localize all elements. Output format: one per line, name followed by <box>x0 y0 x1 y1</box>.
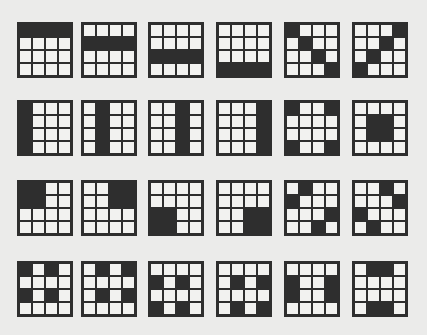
empty-cell <box>245 38 256 49</box>
filled-cell <box>97 129 108 140</box>
empty-cell <box>287 222 298 233</box>
empty-cell <box>219 142 230 153</box>
filled-cell <box>123 290 134 301</box>
empty-cell <box>190 25 201 36</box>
filled-cell <box>97 264 108 275</box>
empty-cell <box>97 51 108 62</box>
empty-cell <box>232 142 243 153</box>
filled-cell <box>313 51 324 62</box>
empty-cell <box>46 222 57 233</box>
empty-cell <box>313 303 324 314</box>
empty-cell <box>190 209 201 220</box>
empty-cell <box>84 196 95 207</box>
empty-cell <box>190 64 201 75</box>
empty-cell <box>245 142 256 153</box>
empty-cell <box>59 38 70 49</box>
empty-cell <box>110 64 121 75</box>
filled-cell <box>151 51 162 62</box>
filled-cell <box>287 196 298 207</box>
empty-cell <box>232 103 243 114</box>
filled-cell <box>368 303 379 314</box>
filled-cell <box>59 25 70 36</box>
empty-cell <box>164 196 175 207</box>
empty-cell <box>110 116 121 127</box>
empty-cell <box>123 129 134 140</box>
empty-cell <box>20 277 31 288</box>
empty-cell <box>20 51 31 62</box>
empty-cell <box>394 183 405 194</box>
empty-cell <box>219 277 230 288</box>
empty-cell <box>245 290 256 301</box>
filled-cell <box>151 303 162 314</box>
empty-cell <box>381 64 392 75</box>
empty-cell <box>110 209 121 220</box>
empty-cell <box>190 303 201 314</box>
empty-cell <box>59 142 70 153</box>
empty-cell <box>110 222 121 233</box>
empty-cell <box>245 196 256 207</box>
empty-cell <box>177 25 188 36</box>
empty-cell <box>177 38 188 49</box>
filled-cell <box>97 103 108 114</box>
filled-cell <box>151 209 162 220</box>
empty-cell <box>245 25 256 36</box>
empty-cell <box>151 64 162 75</box>
empty-cell <box>110 103 121 114</box>
empty-cell <box>110 51 121 62</box>
empty-cell <box>300 64 311 75</box>
empty-cell <box>355 222 366 233</box>
filled-cell <box>123 264 134 275</box>
empty-cell <box>368 277 379 288</box>
filled-cell <box>164 209 175 220</box>
empty-cell <box>368 290 379 301</box>
pattern-grid-r1-c2 <box>81 22 137 78</box>
empty-cell <box>164 183 175 194</box>
empty-cell <box>219 51 230 62</box>
filled-cell <box>177 103 188 114</box>
filled-cell <box>123 183 134 194</box>
empty-cell <box>177 196 188 207</box>
empty-cell <box>151 116 162 127</box>
empty-cell <box>33 116 44 127</box>
empty-cell <box>190 277 201 288</box>
empty-cell <box>164 38 175 49</box>
pattern-grid-r4-c2 <box>81 261 137 317</box>
filled-cell <box>287 103 298 114</box>
pattern-grid-r2-c6 <box>352 100 408 156</box>
filled-cell <box>381 183 392 194</box>
empty-cell <box>59 303 70 314</box>
filled-cell <box>258 116 269 127</box>
empty-cell <box>123 277 134 288</box>
filled-cell <box>110 183 121 194</box>
filled-cell <box>46 25 57 36</box>
empty-cell <box>326 303 337 314</box>
filled-cell <box>190 51 201 62</box>
empty-cell <box>300 290 311 301</box>
empty-cell <box>232 183 243 194</box>
filled-cell <box>245 222 256 233</box>
filled-cell <box>381 303 392 314</box>
empty-cell <box>190 290 201 301</box>
empty-cell <box>287 116 298 127</box>
empty-cell <box>355 183 366 194</box>
empty-cell <box>287 303 298 314</box>
empty-cell <box>164 264 175 275</box>
empty-cell <box>177 209 188 220</box>
empty-cell <box>287 129 298 140</box>
empty-cell <box>84 116 95 127</box>
filled-cell <box>381 38 392 49</box>
empty-cell <box>381 25 392 36</box>
pattern-grid-r3-c1 <box>17 180 73 236</box>
empty-cell <box>151 264 162 275</box>
empty-cell <box>84 129 95 140</box>
filled-cell <box>394 196 405 207</box>
empty-cell <box>394 38 405 49</box>
empty-cell <box>300 103 311 114</box>
empty-cell <box>20 209 31 220</box>
empty-cell <box>287 264 298 275</box>
filled-cell <box>258 209 269 220</box>
filled-cell <box>381 116 392 127</box>
empty-cell <box>313 183 324 194</box>
pattern-grid-r1-c5 <box>284 22 340 78</box>
empty-cell <box>164 103 175 114</box>
